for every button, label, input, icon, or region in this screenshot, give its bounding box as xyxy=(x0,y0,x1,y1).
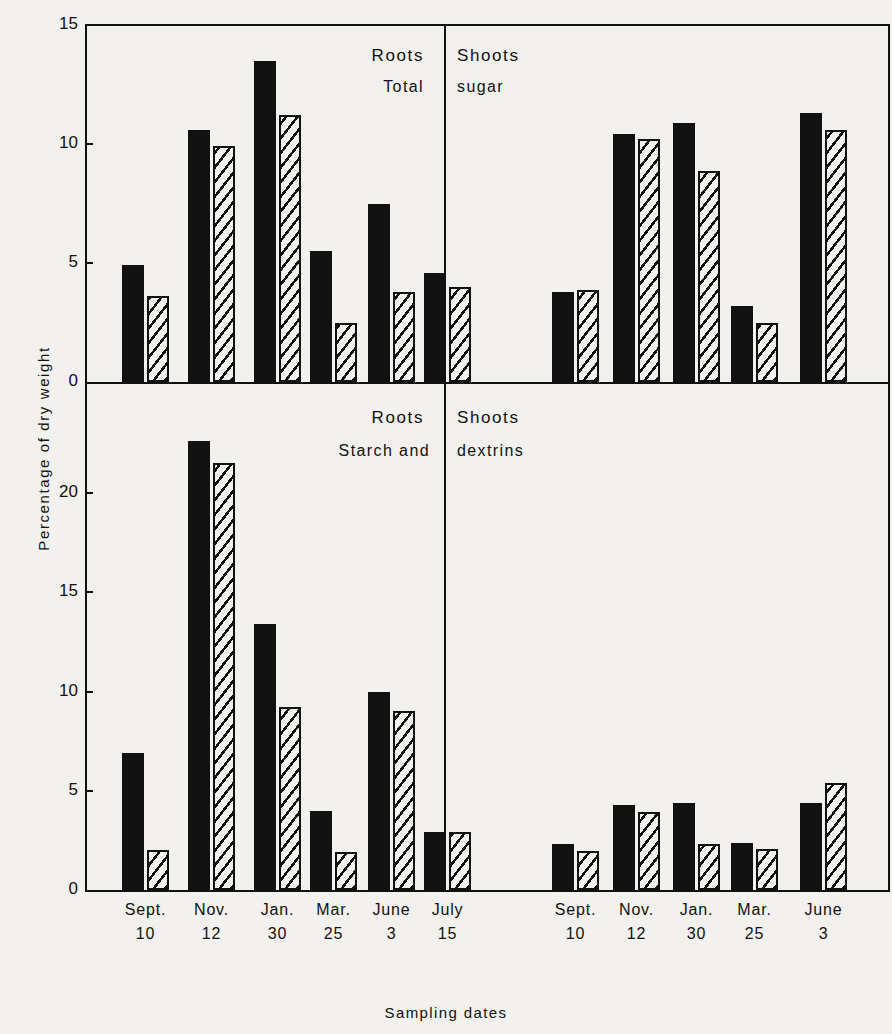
y-tick-label-bottom-15: 15 xyxy=(36,581,78,601)
bar-roots-sugar-5-solid xyxy=(424,273,446,382)
caption-top-right-organ: Shoots xyxy=(457,46,520,66)
bar-shoots-sugar-4-hatched xyxy=(825,130,847,382)
y-tick-label-bottom-10: 10 xyxy=(36,681,78,701)
y-tick-label-top-15: 15 xyxy=(36,14,78,34)
bar-roots-starch-4-hatched xyxy=(393,711,415,890)
bar-shoots-sugar-0-hatched xyxy=(577,290,599,382)
y-tick-label-top-5: 5 xyxy=(36,252,78,272)
bar-roots-sugar-0-hatched xyxy=(147,296,169,382)
caption-top-right-measure: sugar xyxy=(457,78,504,96)
x-category-day: 15 xyxy=(403,925,493,943)
bar-shoots-starch-3-solid xyxy=(731,843,753,890)
bar-roots-sugar-2-solid xyxy=(254,61,276,382)
x-category-right-4: June 3 xyxy=(779,901,869,943)
y-tick-label-bottom-20: 20 xyxy=(36,482,78,502)
bar-roots-sugar-3-hatched xyxy=(335,323,357,383)
y-axis-title: Percentage of dry weight xyxy=(35,199,52,699)
bar-roots-starch-4-solid xyxy=(368,692,390,891)
bar-roots-sugar-4-hatched xyxy=(393,292,415,382)
x-category-day: 3 xyxy=(779,925,869,943)
bar-shoots-sugar-0-solid xyxy=(552,292,574,382)
y-tick-mark-bottom-1 xyxy=(85,591,93,593)
y-tick-mark-bottom-0 xyxy=(85,492,93,494)
bar-shoots-starch-3-hatched xyxy=(756,849,778,890)
bar-roots-sugar-1-solid xyxy=(188,130,210,382)
x-category-month: July xyxy=(403,901,493,919)
y-tick-mark-top-0 xyxy=(85,24,93,26)
bar-roots-starch-5-solid xyxy=(424,832,446,890)
x-axis-title: Sampling dates xyxy=(0,1004,892,1021)
bar-roots-starch-1-hatched xyxy=(213,463,235,890)
caption-bottom-right-organ: Shoots xyxy=(457,408,520,428)
bar-roots-sugar-4-solid xyxy=(368,204,390,383)
bar-shoots-sugar-1-hatched xyxy=(638,139,660,382)
bar-shoots-sugar-3-hatched xyxy=(756,323,778,383)
bar-shoots-starch-1-hatched xyxy=(638,812,660,890)
y-tick-mark-bottom-2 xyxy=(85,691,93,693)
bar-shoots-starch-4-hatched xyxy=(825,783,847,890)
bar-shoots-starch-0-hatched xyxy=(577,851,599,890)
y-tick-label-bottom-0: 0 xyxy=(36,879,78,899)
x-category-left-5: July 15 xyxy=(403,901,493,943)
caption-bottom-right-measure: dextrins xyxy=(457,442,524,460)
y-tick-mark-top-1 xyxy=(85,143,93,145)
caption-top-left-organ: Roots xyxy=(372,46,424,66)
bar-shoots-sugar-4-solid xyxy=(800,113,822,382)
y-tick-mark-bottom-3 xyxy=(85,790,93,792)
y-tick-label-top-0: 0 xyxy=(36,371,78,391)
x-category-month: June xyxy=(779,901,869,919)
bar-roots-starch-5-hatched xyxy=(449,832,471,890)
bar-shoots-sugar-2-solid xyxy=(673,123,695,382)
bar-shoots-sugar-1-solid xyxy=(613,134,635,382)
y-tick-label-bottom-5: 5 xyxy=(36,780,78,800)
bar-roots-starch-3-solid xyxy=(310,811,332,890)
figure-canvas: Percentage of dry weight Sampling dates … xyxy=(0,0,892,1034)
bar-shoots-starch-2-solid xyxy=(673,803,695,890)
caption-bottom-left-organ: Roots xyxy=(372,408,424,428)
panel-shoots-total-sugar xyxy=(445,24,890,384)
bar-roots-sugar-2-hatched xyxy=(279,115,301,382)
bar-shoots-starch-0-solid xyxy=(552,844,574,890)
bar-roots-starch-0-solid xyxy=(122,753,144,890)
bar-roots-starch-0-hatched xyxy=(147,850,169,890)
bar-roots-sugar-0-solid xyxy=(122,265,144,382)
y-tick-mark-top-2 xyxy=(85,262,93,264)
bar-shoots-starch-2-hatched xyxy=(698,844,720,890)
bar-roots-starch-3-hatched xyxy=(335,852,357,890)
bar-roots-starch-2-solid xyxy=(254,624,276,890)
caption-top-left-measure: Total xyxy=(383,78,424,96)
bar-shoots-sugar-2-hatched xyxy=(698,171,720,382)
bar-shoots-sugar-3-solid xyxy=(731,306,753,382)
caption-bottom-left-measure: Starch and xyxy=(339,442,430,460)
bar-shoots-starch-1-solid xyxy=(613,805,635,890)
y-tick-label-top-10: 10 xyxy=(36,133,78,153)
panel-shoots-starch-dextrins xyxy=(445,384,890,892)
bar-roots-starch-2-hatched xyxy=(279,707,301,890)
bar-roots-sugar-1-hatched xyxy=(213,146,235,382)
bar-roots-starch-1-solid xyxy=(188,441,210,890)
bar-shoots-starch-4-solid xyxy=(800,803,822,890)
bar-roots-sugar-3-solid xyxy=(310,251,332,382)
bar-roots-sugar-5-hatched xyxy=(449,287,471,382)
